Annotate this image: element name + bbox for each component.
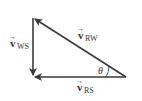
vector-triangle-diagram: v → WS v → RW v → RS θ (0, 0, 142, 101)
label-v-ws: v → WS (9, 33, 29, 51)
svg-text:RS: RS (84, 86, 94, 95)
svg-text:RW: RW (85, 34, 98, 43)
svg-text:→: → (9, 33, 16, 41)
svg-text:WS: WS (17, 42, 29, 51)
angle-arc (106, 66, 109, 77)
svg-text:→: → (77, 25, 84, 33)
label-v-rw: v → RW (77, 25, 98, 43)
label-v-rs: v → RS (76, 77, 94, 95)
svg-text:→: → (76, 77, 83, 85)
angle-theta-label: θ (98, 65, 103, 76)
